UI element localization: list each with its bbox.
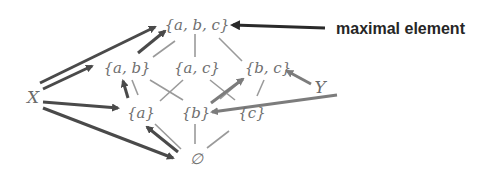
maximal-element-label: maximal element: [336, 20, 466, 37]
edge-abc-bc: [219, 38, 242, 61]
node-ab: {a, b}: [103, 59, 150, 77]
node-abc: {a, b, c}: [164, 16, 229, 34]
diagram-canvas: {a, b, c} {a, b} {a, c} {b, c} {a} {b} {…: [0, 0, 489, 172]
node-a: {a}: [127, 104, 155, 122]
arrow-b-to-bc: [211, 79, 243, 103]
edge-bc-c: [257, 80, 264, 96]
node-b: {b}: [182, 104, 211, 122]
subset-y-label: Y: [314, 77, 327, 97]
node-bc: {b, c}: [245, 59, 292, 77]
node-empty: ∅: [190, 150, 204, 168]
node-ac: {a, c}: [174, 59, 220, 77]
edge-ab-a: [132, 80, 138, 95]
node-c: {c}: [238, 104, 266, 122]
arrow-maximal-element: [233, 25, 325, 28]
edge-c-empty: [207, 131, 229, 148]
edge-ab-b: [150, 80, 183, 100]
subset-x-label: X: [25, 87, 40, 107]
edge-abc-ab: [153, 41, 175, 57]
arrow-x-to-a: [43, 102, 118, 108]
x-arrows: [40, 27, 178, 158]
hasse-diagram: {a, b, c} {a, b} {a, c} {b, c} {a} {b} {…: [0, 0, 489, 172]
arrow-a-to-ab: [123, 81, 128, 98]
